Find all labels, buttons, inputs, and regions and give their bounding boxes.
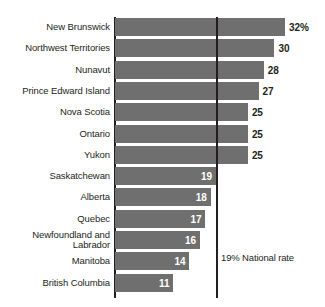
bar-row: Yukon25: [0, 146, 325, 164]
bar-value-label: 17: [179, 213, 201, 224]
category-label: Alberta: [0, 192, 110, 203]
bar-row: Saskatchewan19: [0, 167, 325, 185]
category-label: Manitoba: [0, 256, 110, 267]
bar-value-label: 14: [163, 256, 185, 267]
national-rate-line: [216, 17, 218, 298]
bar-value-label: 16: [174, 235, 196, 246]
bar-value-label: 28: [268, 64, 279, 75]
category-label: New Brunswick: [0, 22, 110, 33]
bar: [115, 18, 285, 36]
bar-value-label: 11: [147, 277, 169, 288]
bar: [115, 39, 274, 57]
category-label: Prince Edward Island: [0, 86, 110, 97]
category-label: Nova Scotia: [0, 107, 110, 118]
bar-value-label: 19: [190, 171, 212, 182]
bar-row: Nunavut28: [0, 61, 325, 79]
bar-row: Quebec17: [0, 210, 325, 228]
bar: [115, 82, 259, 100]
bar-row: Nova Scotia25: [0, 103, 325, 121]
plot-area: New Brunswick32%Northwest Territories30N…: [0, 0, 325, 307]
category-label: Yukon: [0, 150, 110, 161]
category-label: Quebec: [0, 213, 110, 224]
national-rate-label: 19% National rate: [221, 252, 294, 263]
bar-row: Newfoundland and Labrador16: [0, 231, 325, 249]
category-label: Saskatchewan: [0, 171, 110, 182]
category-label: Northwest Territories: [0, 43, 110, 54]
bar-row: Alberta18: [0, 188, 325, 206]
bar: [115, 61, 264, 79]
category-label: British Columbia: [0, 277, 110, 288]
bar-value-label: 25: [252, 107, 263, 118]
bar-row: British Columbia11: [0, 274, 325, 292]
bar-row: Prince Edward Island27: [0, 82, 325, 100]
bar-value-label: 25: [252, 128, 263, 139]
bar-value-label: 18: [185, 192, 207, 203]
category-label: Newfoundland and Labrador: [0, 230, 110, 250]
bar-value-label: 32%: [289, 22, 309, 33]
bar-value-label: 25: [252, 149, 263, 160]
bar: [115, 125, 248, 143]
category-label: Ontario: [0, 128, 110, 139]
bar: [115, 103, 248, 121]
bar-value-label: 27: [263, 85, 274, 96]
bar-row: Ontario25: [0, 125, 325, 143]
category-label: Nunavut: [0, 64, 110, 75]
bar-row: New Brunswick32%: [0, 18, 325, 36]
bar-row: Northwest Territories30: [0, 39, 325, 57]
bar-value-label: 30: [278, 43, 289, 54]
bar: [115, 146, 248, 164]
bar-chart: New Brunswick32%Northwest Territories30N…: [0, 0, 325, 307]
